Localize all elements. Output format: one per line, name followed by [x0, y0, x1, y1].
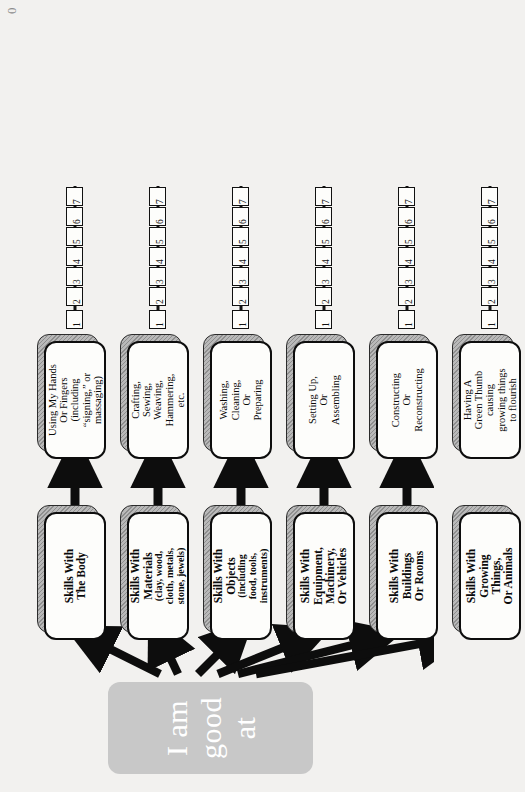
skill-node-face: Skills With Buildings Or Rooms	[376, 512, 438, 640]
rating-cell-6[interactable]: 6	[232, 207, 249, 226]
rating-cell-2[interactable]: 2	[149, 287, 166, 306]
rating-cell-4[interactable]: 4	[481, 247, 498, 266]
description-node-label: Crafting, Sewing, Weaving, Hammering, et…	[130, 374, 187, 427]
rating-cell-4[interactable]: 4	[149, 247, 166, 266]
arrow-root-to-skill-1	[92, 640, 160, 674]
skill-node-1[interactable]: Skills With The Body	[44, 512, 106, 640]
skill-node-6[interactable]: Skills With Growing Things, Or Animals	[459, 512, 521, 640]
skill-node-face: Skills With Growing Things, Or Animals	[459, 512, 521, 640]
skill-node-label: Skills With Growing Things, Or Animals	[465, 548, 514, 605]
skill-node-sublabel: (clay, wood, cloth, metals, stone, jewel…	[154, 548, 186, 605]
rating-cell-7[interactable]: 7	[481, 187, 498, 206]
skill-node-sublabel: (including food, tools, instruments)	[237, 549, 269, 603]
rating-cell-7[interactable]: 7	[149, 187, 166, 206]
rating-cell-6[interactable]: 6	[66, 207, 83, 226]
arrow-root-to-skill-5	[238, 640, 372, 674]
description-node-label: Washing, Cleaning, Or Preparing	[218, 380, 263, 421]
description-node-face: Constructing Or Reconstructing	[376, 341, 438, 459]
description-node-label: Having A Green Thumb causing growing thi…	[462, 368, 519, 431]
arrow-root-to-skill-2	[162, 640, 178, 674]
rating-cell-5[interactable]: 5	[66, 227, 83, 246]
rating-cell-4[interactable]: 4	[66, 247, 83, 266]
skill-node-label: Skills With Buildings Or Rooms	[388, 549, 425, 603]
rating-cell-3[interactable]: 3	[481, 267, 498, 286]
description-node-1[interactable]: Using My Hands Or Fingers (including “si…	[44, 341, 106, 459]
rating-scale-1[interactable]: 1234567	[66, 186, 83, 329]
rating-cell-6[interactable]: 6	[398, 207, 415, 226]
description-node-face: Having A Green Thumb causing growing thi…	[459, 341, 521, 459]
description-node-face: Crafting, Sewing, Weaving, Hammering, et…	[127, 341, 189, 459]
rating-scale-6[interactable]: 1234567	[481, 186, 498, 329]
rating-cell-2[interactable]: 2	[232, 287, 249, 306]
arrow-root-to-skill-4	[218, 640, 302, 674]
rating-cell-1[interactable]: 1	[66, 310, 83, 329]
rating-cell-5[interactable]: 5	[481, 227, 498, 246]
rating-cell-5[interactable]: 5	[315, 227, 332, 246]
skill-node-face: Skills With Materials(clay, wood, cloth,…	[127, 512, 189, 640]
rating-cell-3[interactable]: 3	[232, 267, 249, 286]
skill-node-face: Skills With The Body	[44, 512, 106, 640]
rating-cell-6[interactable]: 6	[149, 207, 166, 226]
description-node-5[interactable]: Constructing Or Reconstructing	[376, 341, 438, 459]
rating-cell-1[interactable]: 1	[315, 310, 332, 329]
skill-node-face: Skills With Objects(including food, tool…	[210, 512, 272, 640]
rating-cell-5[interactable]: 5	[232, 227, 249, 246]
skill-node-label: Skills With Materials	[129, 549, 153, 603]
skill-node-5[interactable]: Skills With Buildings Or Rooms	[376, 512, 438, 640]
description-node-2[interactable]: Crafting, Sewing, Weaving, Hammering, et…	[127, 341, 189, 459]
arrow-root-to-skill-6	[256, 640, 434, 674]
description-node-face: Setting Up, Or Assembling	[293, 341, 355, 459]
description-node-3[interactable]: Washing, Cleaning, Or Preparing	[210, 341, 272, 459]
rating-cell-2[interactable]: 2	[315, 287, 332, 306]
skill-node-2[interactable]: Skills With Materials(clay, wood, cloth,…	[127, 512, 189, 640]
description-node-4[interactable]: Setting Up, Or Assembling	[293, 341, 355, 459]
rating-cell-3[interactable]: 3	[149, 267, 166, 286]
skill-node-4[interactable]: Skills With Equipment, Machinery, Or Veh…	[293, 512, 355, 640]
rating-cell-3[interactable]: 3	[315, 267, 332, 286]
skill-node-3[interactable]: Skills With Objects(including food, tool…	[210, 512, 272, 640]
rating-cell-5[interactable]: 5	[149, 227, 166, 246]
rating-cell-1[interactable]: 1	[481, 310, 498, 329]
rating-scale-3[interactable]: 1234567	[232, 186, 249, 329]
description-node-face: Using My Hands Or Fingers (including “si…	[44, 341, 106, 459]
rating-cell-1[interactable]: 1	[232, 310, 249, 329]
rating-cell-6[interactable]: 6	[481, 207, 498, 226]
description-node-label: Setting Up, Or Assembling	[307, 375, 341, 425]
description-node-label: Using My Hands Or Fingers (including “si…	[47, 364, 104, 436]
root-label: I am good at	[160, 682, 262, 774]
rating-cell-7[interactable]: 7	[66, 187, 83, 206]
skill-node-label: Skills With The Body	[63, 549, 87, 603]
rating-cell-2[interactable]: 2	[66, 287, 83, 306]
rating-cell-2[interactable]: 2	[398, 287, 415, 306]
corner-page-mark: 0	[6, 4, 18, 14]
arrow-root-to-skill-3	[198, 640, 232, 674]
skill-node-label: Skills With Objects	[212, 549, 236, 603]
rating-cell-1[interactable]: 1	[398, 310, 415, 329]
rating-cell-1[interactable]: 1	[149, 310, 166, 329]
rating-cell-3[interactable]: 3	[66, 267, 83, 286]
rating-scale-2[interactable]: 1234567	[149, 186, 166, 329]
rating-cell-7[interactable]: 7	[315, 187, 332, 206]
skill-node-face: Skills With Equipment, Machinery, Or Veh…	[293, 512, 355, 640]
rating-cell-4[interactable]: 4	[315, 247, 332, 266]
rating-cell-7[interactable]: 7	[398, 187, 415, 206]
skill-node-label: Skills With Equipment, Machinery, Or Veh…	[299, 547, 348, 605]
rating-cell-6[interactable]: 6	[315, 207, 332, 226]
description-node-face: Washing, Cleaning, Or Preparing	[210, 341, 272, 459]
rating-cell-2[interactable]: 2	[481, 287, 498, 306]
rating-cell-3[interactable]: 3	[398, 267, 415, 286]
rating-cell-5[interactable]: 5	[398, 227, 415, 246]
rating-cell-4[interactable]: 4	[398, 247, 415, 266]
description-node-label: Constructing Or Reconstructing	[390, 368, 424, 432]
rating-cell-4[interactable]: 4	[232, 247, 249, 266]
rating-scale-5[interactable]: 1234567	[398, 186, 415, 329]
root-node[interactable]: I am good at	[108, 682, 313, 774]
description-node-6[interactable]: Having A Green Thumb causing growing thi…	[459, 341, 521, 459]
rating-scale-4[interactable]: 1234567	[315, 186, 332, 329]
rating-cell-7[interactable]: 7	[232, 187, 249, 206]
